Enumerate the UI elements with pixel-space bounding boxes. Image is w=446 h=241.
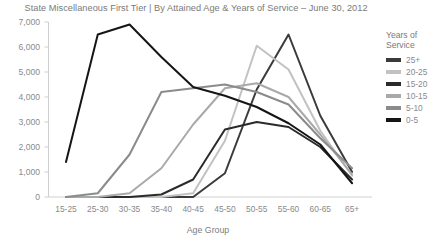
x-axis-tick-label: 30-35 [119,204,140,214]
y-axis-tick-label: 0 [0,192,40,202]
legend-item-label: 0-5 [406,115,418,125]
legend-item[interactable]: 25+ [386,54,444,66]
legend-swatch-icon [386,118,401,122]
x-axis-title: Age Group [48,225,368,235]
legend-swatch-icon [386,106,401,110]
series-line-25plus [66,35,352,198]
y-axis-tick-label: 7,000 [0,17,40,27]
x-axis-tick-label: 60-65 [310,204,331,214]
y-axis-tick-label: 5,000 [0,67,40,77]
y-axis-tick-label: 6,000 [0,42,40,52]
x-axis-tick-label: 40-45 [182,204,203,214]
y-axis-tick-label: 4,000 [0,92,40,102]
axis-ticks [45,22,49,197]
legend-item[interactable]: 15-20 [386,78,444,90]
data-series [66,25,352,198]
legend-title: Years of Service [386,30,444,50]
legend: Years of Service 25+20-2515-2010-155-100… [386,30,444,126]
x-axis-tick-label: 55-60 [278,204,299,214]
legend-item-label: 20-25 [406,67,427,77]
legend-swatch-icon [386,58,401,62]
x-axis-tick-label: 45-50 [214,204,235,214]
legend-item-label: 25+ [406,55,420,65]
y-axis-tick-label: 2,000 [0,142,40,152]
x-axis-tick-label: 65+ [345,204,359,214]
legend-swatch-icon [386,82,401,86]
legend-title-line2: Service [386,40,444,50]
legend-title-line1: Years of [386,30,444,40]
y-axis-tick-label: 3,000 [0,117,40,127]
x-axis-tick-label: 35-40 [151,204,172,214]
legend-item[interactable]: 5-10 [386,102,444,114]
legend-item-label: 5-10 [406,103,423,113]
legend-swatch-icon [386,94,401,98]
legend-item-label: 15-20 [406,79,427,89]
legend-item-label: 10-15 [406,91,427,101]
axis-lines [49,22,373,197]
chart-container: State Miscellaneous First Tier | By Atta… [0,0,446,241]
legend-swatch-icon [386,70,401,74]
x-axis-tick-label: 15-25 [55,204,76,214]
series-line-0-5 [66,25,352,184]
legend-item[interactable]: 10-15 [386,90,444,102]
x-axis-tick-label: 25-30 [87,204,108,214]
legend-item[interactable]: 20-25 [386,66,444,78]
y-axis-tick-label: 1,000 [0,167,40,177]
x-axis-tick-label: 50-55 [246,204,267,214]
legend-item[interactable]: 0-5 [386,114,444,126]
